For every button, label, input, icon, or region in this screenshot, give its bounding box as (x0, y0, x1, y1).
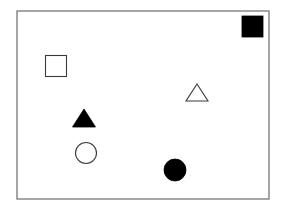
filled-square-icon (242, 16, 263, 37)
hollow-circle-icon (76, 143, 97, 164)
shape-diagram-canvas (0, 0, 282, 214)
filled-circle-icon (164, 159, 186, 181)
diagram-frame (17, 11, 269, 199)
hollow-square-icon (46, 56, 67, 77)
